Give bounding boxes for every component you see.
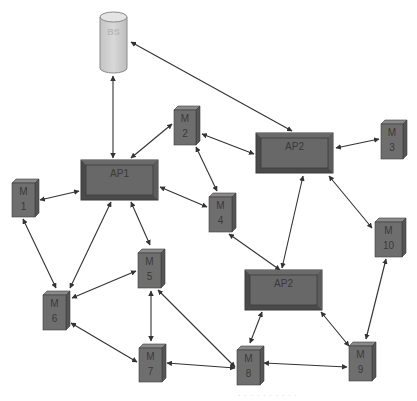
node-ap1[interactable]: AP1 xyxy=(81,160,158,200)
node-label: BS xyxy=(107,27,120,37)
node-label-number: 1 xyxy=(21,201,27,212)
node-label-number: 4 xyxy=(218,215,224,226)
node-label-number: 9 xyxy=(358,364,364,375)
node-label: AP2 xyxy=(285,141,304,152)
edge-ap2a-ap2b xyxy=(282,176,303,268)
edge-m1-m6 xyxy=(23,219,56,288)
edge-ap2b-m8 xyxy=(250,312,262,343)
edge-m6-m7 xyxy=(71,323,137,362)
node-label-number: 6 xyxy=(52,313,58,324)
node-m8[interactable]: M8 xyxy=(237,346,264,385)
node-label-top: M xyxy=(19,186,27,197)
edge-m4-ap2b xyxy=(229,234,280,270)
node-m2[interactable]: M2 xyxy=(174,106,200,145)
network-diagram: BSAP1AP2AP2M1M2M3M4M5M6M7M8M9M10 xyxy=(0,0,417,401)
node-label-top: M xyxy=(181,113,189,124)
node-label-number: 10 xyxy=(383,240,395,251)
edge-bs-ap2a xyxy=(131,42,292,131)
edge-ap2b-m9 xyxy=(321,312,349,346)
edge-ap2a-m10 xyxy=(329,176,372,228)
node-label: AP1 xyxy=(110,168,129,179)
edge-m7-m8 xyxy=(167,363,235,368)
node-label-top: M xyxy=(216,200,224,211)
edge-m5-m6 xyxy=(72,271,136,298)
figure-caption: · · · · · · · · · · xyxy=(238,392,298,399)
edge-m2-m4 xyxy=(196,147,217,191)
edges-layer xyxy=(23,42,386,368)
node-m6[interactable]: M6 xyxy=(43,291,70,330)
node-label-number: 8 xyxy=(246,368,252,379)
node-m3[interactable]: M3 xyxy=(381,120,407,159)
node-label-top: M xyxy=(244,353,252,364)
edge-m5-m8 xyxy=(158,290,235,367)
node-m5[interactable]: M5 xyxy=(138,249,165,288)
node-label-top: M xyxy=(145,256,153,267)
node-label-top: M xyxy=(50,298,58,309)
node-m10[interactable]: M10 xyxy=(375,218,406,257)
node-label-top: M xyxy=(356,349,364,360)
node-label-top: M xyxy=(146,351,154,362)
node-m1[interactable]: M1 xyxy=(12,179,39,217)
node-label-top: M xyxy=(384,225,392,236)
edge-ap1-m6 xyxy=(70,202,111,288)
node-m7[interactable]: M7 xyxy=(139,344,166,382)
cylinder-top xyxy=(100,12,127,22)
node-m4[interactable]: M4 xyxy=(209,193,236,232)
node-label: AP2 xyxy=(274,278,293,289)
edge-m2-ap2a xyxy=(202,134,254,154)
edge-m1-ap1 xyxy=(40,191,79,200)
node-m9[interactable]: M9 xyxy=(349,342,376,381)
node-ap2a[interactable]: AP2 xyxy=(256,133,333,173)
node-label-top: M xyxy=(388,127,396,138)
edge-m8-m9 xyxy=(264,363,347,367)
edge-ap1-m5 xyxy=(131,202,150,245)
edge-ap1-m4 xyxy=(160,187,207,207)
node-ap2b[interactable]: AP2 xyxy=(245,270,322,310)
node-bs[interactable]: BS xyxy=(100,12,127,73)
edge-m10-m9 xyxy=(366,259,386,339)
cylinder-icon xyxy=(100,17,127,73)
node-label-number: 3 xyxy=(389,142,395,153)
node-label-number: 2 xyxy=(182,128,188,139)
node-label-number: 5 xyxy=(147,271,153,282)
node-label-number: 7 xyxy=(148,366,154,377)
edge-ap1-m2 xyxy=(131,124,172,158)
edge-ap2a-m3 xyxy=(336,139,379,148)
